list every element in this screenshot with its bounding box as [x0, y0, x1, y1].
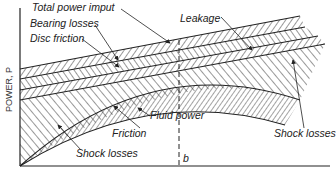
power-loss-diagram: POWER, P b Total power imput Bearing los…	[0, 0, 336, 184]
b-marker-label: b	[183, 152, 189, 164]
label-disc-friction: Disc friction	[30, 32, 84, 44]
label-total-power-input: Total power imput	[32, 1, 116, 13]
label-bearing-losses: Bearing losses	[30, 17, 100, 29]
label-shock-losses-right: Shock losses	[274, 127, 336, 139]
label-friction: Friction	[112, 127, 147, 139]
label-shock-losses-left: Shock losses	[76, 147, 139, 159]
label-fluid-power: Fluid power	[150, 109, 205, 121]
label-leakage: Leakage	[180, 12, 220, 24]
y-axis-label: POWER, P	[4, 67, 14, 112]
